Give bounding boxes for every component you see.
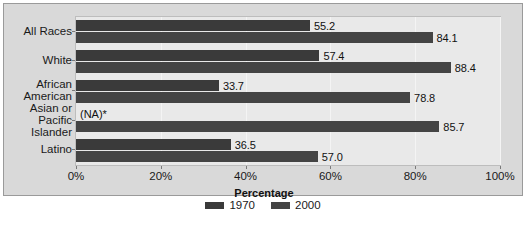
y-axis-category-line: African (6, 78, 72, 90)
bar-value-label: 57.0 (322, 152, 343, 163)
chart-frame: All RacesWhiteAfricanAmericanAsian orPac… (3, 3, 523, 196)
bar-2000-asian-or-pacific-islander[interactable] (76, 121, 439, 132)
x-axis-tick-label: 60% (305, 170, 355, 182)
legend-label: 1970 (229, 199, 255, 211)
x-axis-tick (246, 166, 247, 169)
bar-value-label: 33.7 (223, 81, 244, 92)
x-axis-tick-label: 0% (51, 170, 101, 182)
y-axis-category-label: All Races (6, 25, 72, 37)
chart-legend: 19702000 (0, 199, 526, 211)
bar-na-label: (NA)* (80, 109, 107, 120)
y-axis-category-line: Asian or (6, 102, 72, 114)
y-axis-category-label: White (6, 54, 72, 66)
bar-value-label: 36.5 (235, 140, 256, 151)
y-axis-category-line: White (6, 54, 72, 66)
legend-swatch-icon (205, 202, 224, 209)
y-axis-category-label: Asian orPacificIslander (6, 102, 72, 138)
legend-swatch-icon (271, 202, 290, 209)
bar-value-label: 85.7 (443, 122, 464, 133)
bar-1970-white[interactable] (76, 50, 319, 61)
bar-value-label: 55.2 (314, 21, 335, 32)
y-axis-category-line: All Races (6, 25, 72, 37)
chart-screenshot: All RacesWhiteAfricanAmericanAsian orPac… (0, 0, 526, 225)
legend-item-2000[interactable]: 2000 (271, 199, 321, 211)
y-axis-labels: All RacesWhiteAfricanAmericanAsian orPac… (4, 16, 72, 166)
y-axis-category-line: American (6, 90, 72, 102)
y-axis-category-line: Islander (6, 126, 72, 138)
y-axis-category-line: Pacific (6, 114, 72, 126)
bar-2000-african-american[interactable] (76, 92, 410, 103)
x-axis-tick-label: 40% (221, 170, 271, 182)
legend-label: 2000 (295, 199, 321, 211)
x-axis-tick-label: 80% (390, 170, 440, 182)
y-axis-category-line: Latino (6, 143, 72, 155)
y-axis-category-label: AfricanAmerican (6, 78, 72, 102)
x-axis-tick (330, 166, 331, 169)
x-axis-tick-label: 100% (475, 170, 525, 182)
gridline (500, 17, 501, 165)
x-axis-tick (161, 166, 162, 169)
bar-value-label: 88.4 (455, 63, 476, 74)
legend-item-1970[interactable]: 1970 (205, 199, 255, 211)
x-axis-tick (415, 166, 416, 169)
bar-2000-all-races[interactable] (76, 32, 433, 43)
bar-value-label: 57.4 (323, 51, 344, 62)
x-axis-tick (76, 166, 77, 169)
x-axis-tick (500, 166, 501, 169)
bar-1970-african-american[interactable] (76, 80, 219, 91)
x-axis-title: Percentage (4, 187, 524, 199)
y-axis-category-label: Latino (6, 143, 72, 155)
plot-area: 55.284.157.488.433.778.8(NA)*85.736.557.… (75, 16, 501, 166)
bar-1970-latino[interactable] (76, 139, 231, 150)
plot-inner: 55.284.157.488.433.778.8(NA)*85.736.557.… (76, 17, 500, 165)
bar-1970-all-races[interactable] (76, 20, 310, 31)
bar-2000-latino[interactable] (76, 151, 318, 162)
bar-2000-white[interactable] (76, 62, 451, 73)
bar-value-label: 78.8 (414, 93, 435, 104)
x-axis-tick-label: 20% (136, 170, 186, 182)
bar-value-label: 84.1 (437, 33, 458, 44)
